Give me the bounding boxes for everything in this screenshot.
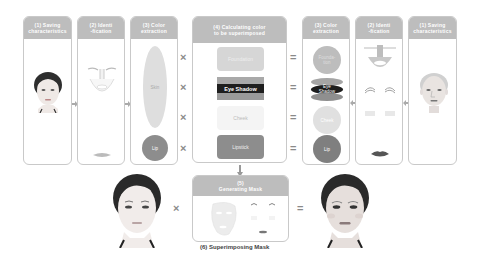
face-mask-icon xyxy=(205,200,245,238)
face-photo-right xyxy=(416,71,452,113)
card-title: (2) Identi -fication xyxy=(356,17,402,39)
superimposing-mask-caption: (6) Superimposing Mask xyxy=(200,244,269,250)
lips-icon xyxy=(92,144,112,150)
card-title: (2) Identi -fication xyxy=(78,17,124,39)
equals-icon: = xyxy=(290,52,296,63)
multiply-icon: × xyxy=(173,203,179,214)
face-photo-left xyxy=(32,71,64,113)
face-landmarks-icon xyxy=(84,65,120,99)
multiply-icon: × xyxy=(180,143,186,154)
lip-label: Lip xyxy=(152,146,158,151)
card-identification-right: (2) Identi -fication xyxy=(355,16,403,165)
foundation-swatch: Foundation xyxy=(217,47,264,71)
eye-shadow-label: Eye Shadow xyxy=(311,84,343,96)
card-color-extraction-right: (3) Color extraction Founda- tion Eye Sh… xyxy=(302,16,350,165)
skin-label: Skin xyxy=(151,85,160,90)
card-title: (5) Generating Mask xyxy=(193,176,288,196)
card-title: (3) Color extraction xyxy=(131,17,177,39)
card-title: (4) Calculating color to be superimposed xyxy=(193,17,286,43)
eye-shadow-swatch: Eye Shadow xyxy=(217,77,264,101)
multiply-icon: × xyxy=(180,82,186,93)
foundation-label: Foundation xyxy=(228,56,253,62)
card-title: (3) Color extraction xyxy=(303,17,349,39)
equals-icon: = xyxy=(290,112,296,123)
eyebrow-landmarks-icon xyxy=(362,80,398,90)
lipstick-label: Lipstick xyxy=(232,144,249,150)
equals-icon: = xyxy=(290,143,296,154)
multiply-icon: × xyxy=(180,52,186,63)
foundation-circle: Founda- tion xyxy=(313,46,341,74)
foundation-label: Founda- tion xyxy=(319,55,336,65)
card-generating-mask: (5) Generating Mask xyxy=(192,175,289,242)
eye-shadow-label: Eye Shadow xyxy=(217,84,264,93)
nose-mouth-landmarks-icon xyxy=(362,43,398,73)
card-title: (1) Saving characteristics xyxy=(409,17,456,39)
card-color-extraction-left: (3) Color extraction Skin Lip xyxy=(130,16,178,165)
card-title: (1) Saving characteristics xyxy=(24,17,71,39)
lip-circle: Lip xyxy=(313,135,341,163)
skin-color-swatch: Skin xyxy=(143,46,167,128)
eye-shadow-stack: Eye Shadow xyxy=(311,78,343,102)
lipstick-swatch: Lipstick xyxy=(217,135,264,159)
equals-icon: = xyxy=(290,82,296,93)
cheek-label: Cheek xyxy=(320,118,333,123)
cheek-circle: Cheek xyxy=(313,106,341,134)
lip-color-swatch: Lip xyxy=(142,135,168,161)
card-calculating-color: (4) Calculating color to be superimposed… xyxy=(192,16,287,163)
result-face-photo xyxy=(316,172,374,248)
features-mask-icon xyxy=(245,200,283,238)
equals-icon: = xyxy=(297,203,303,214)
card-saving-characteristics-left: (1) Saving characteristics xyxy=(23,16,72,165)
cheek-label: Cheek xyxy=(233,115,247,121)
cheek-landmarks-icon xyxy=(365,111,395,117)
multiply-icon: × xyxy=(180,112,186,123)
lips-icon xyxy=(370,144,390,152)
cheek-swatch: Cheek xyxy=(217,106,264,130)
original-face-photo xyxy=(108,172,166,248)
card-identification-left: (2) Identi -fication xyxy=(77,16,125,165)
lip-label: Lip xyxy=(324,147,330,152)
card-saving-characteristics-right: (1) Saving characteristics xyxy=(408,16,457,165)
